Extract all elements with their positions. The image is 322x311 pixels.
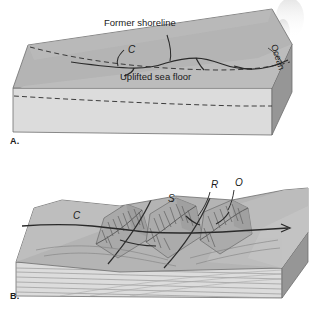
panel-b-letter: B. [10, 291, 19, 301]
diagram-canvas: Former shoreline Uplifted sea floor C Oc… [0, 0, 322, 311]
label-former-shoreline: Former shoreline [104, 17, 176, 28]
label-coastline-c-a: C [128, 44, 136, 55]
label-subsequent-stream-s: S [168, 193, 175, 204]
figure-geologic-block-diagrams: Former shoreline Uplifted sea floor C Oc… [0, 0, 322, 311]
panel-b-block [16, 188, 308, 298]
label-coastline-c-b: C [73, 210, 81, 221]
label-resequent-stream-r: R [211, 179, 218, 190]
panel-a-letter: A. [10, 136, 19, 146]
panel-a-front-face [13, 88, 272, 135]
label-obsequent-stream-o: O [235, 177, 243, 188]
label-uplifted-sea-floor: Uplifted sea floor [120, 71, 191, 82]
